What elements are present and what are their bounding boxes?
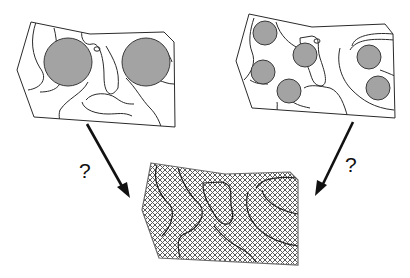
right-circle-2 [293, 43, 317, 67]
right-circle-4 [277, 79, 301, 103]
right-circle-3 [251, 60, 275, 84]
right-question-mark: ? [345, 153, 357, 176]
diagram: ? ? [0, 0, 410, 278]
right-circle-1 [253, 21, 277, 45]
left-map [17, 22, 175, 130]
right-circle-6 [366, 76, 390, 100]
left-question-mark: ? [79, 159, 91, 182]
left-circle-2 [122, 38, 170, 86]
left-arrow [87, 124, 130, 198]
right-circle-5 [357, 45, 381, 69]
left-circle-1 [44, 38, 92, 86]
right-map [236, 14, 395, 118]
target-map [142, 163, 298, 265]
